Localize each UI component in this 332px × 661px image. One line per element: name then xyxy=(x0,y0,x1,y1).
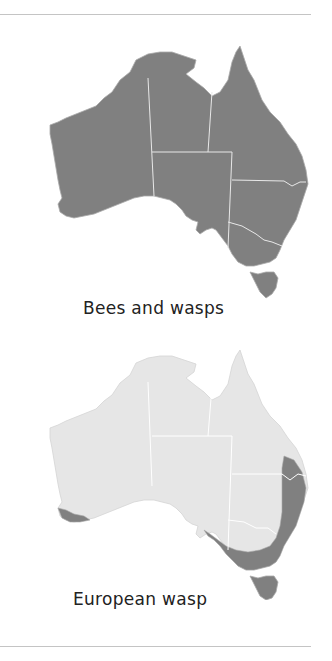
caption-european-wasp: European wasp xyxy=(73,589,207,609)
tasmania xyxy=(250,576,278,600)
australia-map-bees-and-wasps xyxy=(0,40,332,300)
caption-bees-and-wasps: Bees and wasps xyxy=(83,298,224,318)
bottom-divider xyxy=(0,646,311,647)
top-divider xyxy=(0,14,311,15)
tasmania xyxy=(250,272,278,298)
mainland xyxy=(50,350,308,570)
map-panel-bees-and-wasps: Bees and wasps xyxy=(0,40,332,330)
mainland xyxy=(50,46,308,266)
map-panel-european-wasp: European wasp xyxy=(0,350,332,630)
australia-map-european-wasp xyxy=(0,350,332,600)
